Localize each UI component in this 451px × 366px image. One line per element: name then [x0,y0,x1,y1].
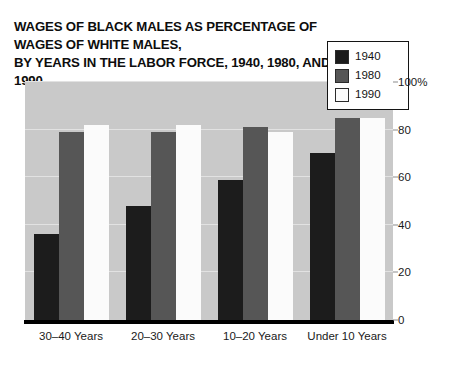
bar-1990-3[interactable] [268,132,293,320]
bar-1940-4[interactable] [310,153,335,320]
bar-1940-1[interactable] [34,234,59,320]
y-axis-label-0: 0 [398,314,404,326]
bar-group-4 [310,82,385,320]
chart-figure: WAGES OF BLACK MALES AS PERCENTAGE OF WA… [0,0,451,366]
plot-area [25,82,393,320]
bar-1980-2[interactable] [151,132,176,320]
legend-item-1980[interactable]: 1980 [335,66,401,85]
bar-group-3 [218,82,293,320]
y-axis-label-80: 80 [398,124,411,136]
legend-item-1990[interactable]: 1990 [335,85,401,104]
bar-1980-3[interactable] [243,127,268,320]
y-axis-label-20: 20 [398,266,411,278]
legend-swatch-1980 [335,69,349,83]
page-title: WAGES OF BLACK MALES AS PERCENTAGE OF WA… [14,18,354,90]
x-axis-label-2: 20–30 Years [131,330,195,342]
x-axis-label-3: 10–20 Years [223,330,287,342]
legend-swatch-1940 [335,50,349,64]
legend-label-1980: 1980 [355,70,381,82]
legend-item-1940[interactable]: 1940 [335,47,401,66]
y-axis-label-100: 100% [398,76,427,88]
bar-1990-2[interactable] [176,125,201,320]
x-axis-label-4: Under 10 Years [307,330,386,342]
bar-1940-2[interactable] [126,206,151,320]
bar-1940-3[interactable] [218,180,243,320]
y-axis-label-40: 40 [398,219,411,231]
bar-1980-1[interactable] [59,132,84,320]
bar-group-2 [126,82,201,320]
bar-1990-1[interactable] [84,125,109,320]
bar-1980-4[interactable] [335,118,360,320]
x-axis-line [24,320,394,324]
legend-label-1940: 1940 [355,51,381,63]
legend: 1940 1980 1990 [327,41,409,110]
x-axis-label-1: 30–40 Years [39,330,103,342]
legend-label-1990: 1990 [355,89,381,101]
legend-swatch-1990 [335,88,349,102]
bar-1990-4[interactable] [360,118,385,320]
bar-group-1 [34,82,109,320]
y-axis-label-60: 60 [398,171,411,183]
